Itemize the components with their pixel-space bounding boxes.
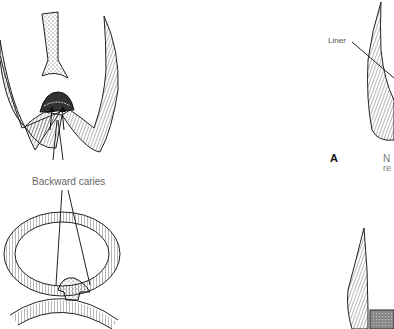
tooth-section-bottom (4, 190, 120, 329)
label-liner: Liner (328, 36, 346, 45)
dental-diagram (0, 0, 394, 329)
panel-letter-a: A (330, 152, 338, 164)
tooth-section-top (0, 12, 118, 160)
caption-backward-caries: Backward caries (32, 176, 105, 187)
enamel-right (62, 16, 118, 152)
tooth-right-bottom (348, 228, 394, 329)
tooth-right-top (352, 2, 394, 140)
truncated-label-line2: re (383, 163, 391, 173)
pulp-column (42, 12, 68, 78)
restoration-block (370, 310, 394, 329)
